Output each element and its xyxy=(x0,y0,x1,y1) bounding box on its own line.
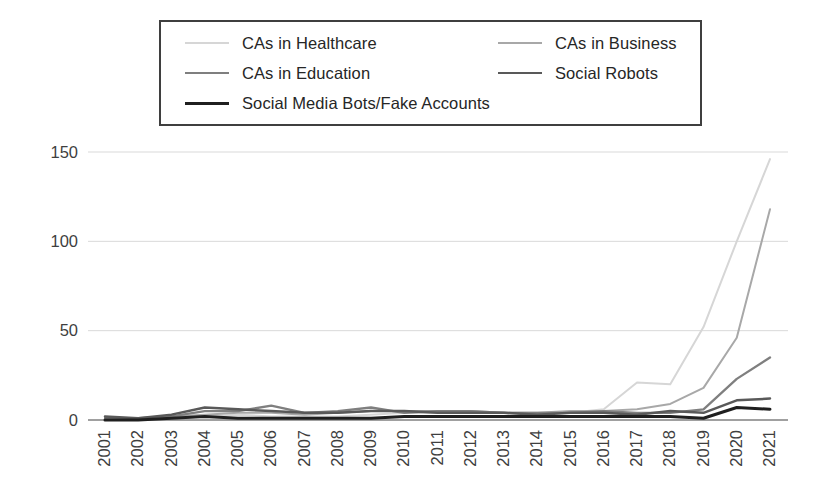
line-chart-figure: 0501001502001200220032004200520062007200… xyxy=(0,0,814,496)
x-tick-label-2008: 2008 xyxy=(328,430,346,467)
healthcare-line-swatch xyxy=(185,42,229,44)
series-line-2 xyxy=(105,357,770,418)
business-line-swatch xyxy=(498,42,542,44)
chart-legend: CAs in Healthcare CAs in Business CAs in… xyxy=(159,20,702,126)
y-tick-label-100: 100 xyxy=(50,232,78,250)
x-tick-label-2009: 2009 xyxy=(361,430,379,467)
series-line-0 xyxy=(105,159,770,418)
x-tick-label-2006: 2006 xyxy=(261,430,279,467)
y-tick-label-150: 150 xyxy=(50,143,78,161)
x-tick-label-2013: 2013 xyxy=(494,430,512,467)
x-tick-label-2003: 2003 xyxy=(162,430,180,467)
legend-item-cas-in-education: CAs in Education xyxy=(185,60,490,86)
x-tick-label-2015: 2015 xyxy=(561,430,579,467)
social-robots-line-swatch xyxy=(498,72,542,75)
x-tick-label-2001: 2001 xyxy=(95,430,113,467)
x-tick-label-2002: 2002 xyxy=(128,430,146,467)
x-tick-label-2018: 2018 xyxy=(660,430,678,467)
x-tick-label-2004: 2004 xyxy=(195,430,213,467)
legend-item-social-media-bots: Social Media Bots/Fake Accounts xyxy=(185,90,490,116)
legend-label-social-robots: Social Robots xyxy=(555,64,658,83)
legend-label-social-media-bots: Social Media Bots/Fake Accounts xyxy=(242,94,490,113)
series-line-1 xyxy=(105,209,770,418)
legend-label-business: CAs in Business xyxy=(555,34,677,53)
x-tick-label-2019: 2019 xyxy=(694,430,712,467)
legend-item-social-robots: Social Robots xyxy=(498,60,686,86)
y-tick-label-0: 0 xyxy=(69,411,78,429)
legend-item-cas-in-healthcare: CAs in Healthcare xyxy=(185,30,490,56)
x-tick-label-2012: 2012 xyxy=(461,430,479,467)
x-tick-label-2011: 2011 xyxy=(428,430,446,465)
x-tick-label-2007: 2007 xyxy=(295,430,313,467)
education-line-swatch xyxy=(185,72,229,74)
social-media-bots-line-swatch xyxy=(185,102,229,105)
y-tick-label-50: 50 xyxy=(60,321,78,339)
x-tick-label-2020: 2020 xyxy=(727,430,745,467)
x-tick-label-2005: 2005 xyxy=(228,430,246,467)
legend-label-healthcare: CAs in Healthcare xyxy=(242,34,377,53)
legend-label-education: CAs in Education xyxy=(242,64,370,83)
legend-item-cas-in-business: CAs in Business xyxy=(498,30,686,56)
x-tick-label-2021: 2021 xyxy=(760,430,778,467)
x-tick-label-2010: 2010 xyxy=(394,430,412,467)
x-tick-label-2016: 2016 xyxy=(594,430,612,467)
x-tick-label-2014: 2014 xyxy=(527,430,545,467)
x-tick-label-2017: 2017 xyxy=(627,430,645,467)
